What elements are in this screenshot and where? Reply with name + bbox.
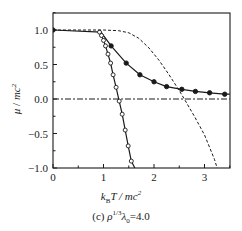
- x-tick-label: 3: [202, 171, 208, 183]
- filled-circles-marker: [152, 80, 156, 84]
- open-circles-marker: [114, 85, 118, 89]
- open-circles-marker: [123, 128, 127, 132]
- open-circles-marker: [104, 44, 108, 48]
- filled-circles-line: [53, 30, 230, 94]
- y-axis-label: μ / mc2: [10, 83, 22, 115]
- x-tick-label: 0: [50, 171, 56, 183]
- y-tick-label: 0.5: [34, 59, 48, 71]
- y-tick-label: −0.5: [28, 128, 48, 140]
- x-axis-label: kBT / mc2: [0, 189, 242, 205]
- y-tick-label: −1.0: [28, 162, 48, 174]
- y-tick-label: 1.0: [34, 24, 48, 36]
- plot-area: [51, 28, 230, 168]
- filled-circles-marker: [109, 44, 113, 48]
- filled-circles-marker: [164, 84, 168, 88]
- filled-circles-marker: [223, 92, 227, 96]
- caption-prefix: (c): [92, 210, 107, 222]
- x-tick-label: 2: [151, 171, 157, 183]
- open-circles-marker: [111, 73, 115, 77]
- filled-circles-marker: [124, 61, 128, 65]
- x-tick-label: 1: [101, 171, 107, 183]
- y-tick-label: 0.0: [34, 93, 48, 105]
- open-circles-marker: [117, 99, 121, 103]
- open-circles-marker: [120, 112, 124, 116]
- axes: 0123−1.0−0.50.00.51.0: [28, 13, 230, 183]
- open-circles-marker: [102, 38, 106, 42]
- figure-caption: (c) ρ1/3λ0=4.0: [0, 209, 242, 225]
- filled-circles-marker: [180, 87, 184, 91]
- open-circles-marker: [109, 61, 113, 65]
- filled-circles-marker: [207, 91, 211, 95]
- open-circles-marker: [126, 144, 130, 148]
- open-circles-marker: [129, 159, 133, 163]
- open-circles-marker: [100, 34, 104, 38]
- filled-circles-marker: [138, 73, 142, 77]
- filled-circles-marker: [193, 89, 197, 93]
- plot-frame: [53, 13, 230, 168]
- open-circles-marker: [106, 52, 110, 56]
